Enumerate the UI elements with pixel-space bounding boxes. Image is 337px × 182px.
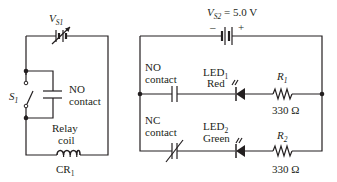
battery-icon — [222, 27, 232, 45]
vs2-label: VS2 = 5.0 V — [207, 6, 257, 21]
no-contact-branch — [26, 71, 53, 118]
resistor-r2-icon — [273, 146, 292, 156]
led1-color: Red — [207, 77, 225, 89]
no-contact-label-1: NO — [69, 83, 85, 95]
plus-sign: + — [238, 21, 244, 33]
vs1-label: VS1 — [49, 12, 63, 27]
led2-color: Green — [203, 132, 230, 144]
row2-contact-label-2: contact — [145, 126, 177, 138]
left-circuit: VS1 S1 NO contact Relay coil CR1 — [9, 12, 108, 178]
row2-contact-label-1: NC — [145, 114, 160, 126]
cr1-label: CR1 — [56, 163, 75, 178]
row1-contact-label-1: NO — [145, 61, 161, 73]
row1-contact-label-2: contact — [145, 73, 177, 85]
relay-label-1: Relay — [52, 122, 78, 134]
resistor-r1-icon — [273, 89, 292, 99]
minus-sign: – — [209, 21, 216, 33]
r2-value: 330 Ω — [272, 163, 299, 175]
right-circuit: VS2 = 5.0 V – + NO contact LED1 Red R1 3… — [138, 6, 325, 175]
r2-label: R2 — [276, 129, 288, 144]
s1-label: S1 — [9, 90, 18, 105]
no-contact-label-2: contact — [69, 95, 101, 107]
r1-label: R1 — [276, 70, 287, 85]
no-contact-icon — [43, 91, 62, 98]
no-contact-icon — [172, 86, 177, 102]
led-green-icon — [236, 138, 245, 158]
circuit-diagram: VS1 S1 NO contact Relay coil CR1 — [0, 0, 337, 182]
led-red-icon — [232, 80, 245, 101]
relay-coil-icon — [57, 151, 80, 157]
r1-value: 330 Ω — [272, 104, 299, 116]
relay-label-2: coil — [58, 134, 75, 146]
